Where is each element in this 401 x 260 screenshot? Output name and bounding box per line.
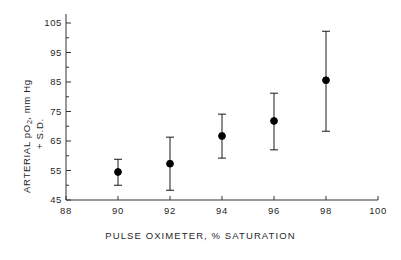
y-axis-ticks	[66, 23, 71, 200]
data-point-marker	[323, 77, 330, 84]
data-point-group	[166, 137, 174, 190]
chart-figure: ARTERIAL pO2, mm Hg + S.D. 4555657585951…	[0, 0, 401, 260]
data-point-group	[322, 31, 330, 131]
data-point-marker	[271, 118, 278, 125]
data-point-group	[218, 114, 226, 158]
x-axis-ticks	[66, 196, 378, 200]
data-point-marker	[167, 160, 174, 167]
data-series	[114, 31, 330, 190]
plot-area	[0, 0, 401, 260]
data-point-marker	[219, 133, 226, 140]
x-axis-title: PULSE OXIMETER, % SATURATION	[0, 230, 401, 241]
data-point-marker	[115, 169, 122, 176]
data-point-group	[270, 93, 278, 150]
axis-lines	[66, 14, 378, 200]
data-point-group	[114, 159, 122, 185]
